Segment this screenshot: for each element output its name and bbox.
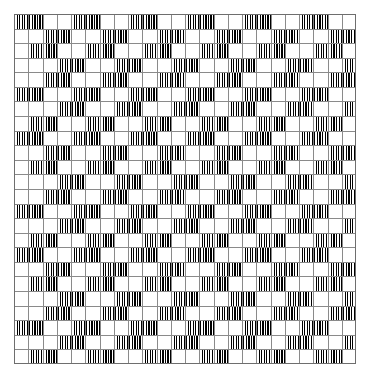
stripe-block xyxy=(85,160,114,175)
stripe-block xyxy=(57,291,86,306)
stripe-block xyxy=(299,87,328,102)
stripe-block xyxy=(214,262,243,277)
stripe-block xyxy=(14,87,43,102)
stripe-block xyxy=(199,160,228,175)
stripe-block xyxy=(171,58,200,73)
stripe-block xyxy=(214,72,243,87)
stripe-block xyxy=(256,43,285,58)
stripe-block xyxy=(157,306,186,321)
stripe-block xyxy=(313,43,342,58)
stripe-block xyxy=(256,276,285,291)
stripe-block xyxy=(285,101,314,116)
stripe-block xyxy=(157,145,186,160)
stripe-block xyxy=(285,291,314,306)
stripe-block xyxy=(142,116,171,131)
stripe-block xyxy=(85,349,114,364)
page-canvas: Twisted cord grid illusion xyxy=(0,0,370,381)
stripe-block xyxy=(342,174,356,189)
stripe-block xyxy=(328,72,357,87)
stripe-block xyxy=(299,320,328,335)
stripe-block xyxy=(328,189,357,204)
stripe-block xyxy=(228,58,257,73)
stripe-block xyxy=(271,189,300,204)
stripe-block xyxy=(43,145,72,160)
stripe-block xyxy=(271,262,300,277)
stripe-block xyxy=(142,349,171,364)
stripe-block xyxy=(57,218,86,233)
stripe-block xyxy=(171,335,200,350)
illusion-figure xyxy=(14,14,356,364)
stripe-block xyxy=(242,204,271,219)
stripe-block xyxy=(342,58,356,73)
stripe-block xyxy=(43,72,72,87)
stripe-block xyxy=(14,320,43,335)
stripe-block xyxy=(328,145,357,160)
stripe-block xyxy=(71,247,100,262)
stripe-block xyxy=(57,174,86,189)
stripe-block xyxy=(299,14,328,29)
stripe-block xyxy=(43,262,72,277)
stripe-block xyxy=(228,174,257,189)
stripe-block xyxy=(71,14,100,29)
stripe-block xyxy=(142,276,171,291)
stripe-block xyxy=(114,58,143,73)
stripe-block xyxy=(71,87,100,102)
stripe-block xyxy=(342,335,356,350)
stripe-block xyxy=(171,101,200,116)
stripe-block xyxy=(14,204,43,219)
stripe-block xyxy=(28,43,57,58)
stripe-block xyxy=(214,29,243,44)
stripe-block xyxy=(100,189,129,204)
stripe-block xyxy=(185,87,214,102)
stripe-block xyxy=(28,116,57,131)
stripe-block xyxy=(28,276,57,291)
stripe-block xyxy=(85,116,114,131)
stripe-block xyxy=(214,145,243,160)
stripe-block xyxy=(71,131,100,146)
stripe-block xyxy=(71,320,100,335)
stripe-block xyxy=(285,58,314,73)
stripe-block xyxy=(299,204,328,219)
stripe-block xyxy=(199,43,228,58)
stripe-block xyxy=(313,233,342,248)
stripe-block xyxy=(256,233,285,248)
stripe-block xyxy=(157,72,186,87)
stripe-block xyxy=(328,262,357,277)
stripe-block xyxy=(43,29,72,44)
stripe-block xyxy=(85,276,114,291)
stripe-block xyxy=(71,204,100,219)
stripe-block xyxy=(228,218,257,233)
stripe-block xyxy=(157,262,186,277)
stripe-block xyxy=(256,160,285,175)
stripe-block xyxy=(114,101,143,116)
stripe-block xyxy=(214,189,243,204)
stripe-block xyxy=(299,131,328,146)
stripe-block xyxy=(157,189,186,204)
stripe-block xyxy=(57,58,86,73)
stripe-block xyxy=(342,101,356,116)
stripe-block xyxy=(114,335,143,350)
stripe-block xyxy=(199,233,228,248)
stripe-block xyxy=(100,306,129,321)
stripe-block xyxy=(185,320,214,335)
stripe-block xyxy=(271,72,300,87)
stripe-block xyxy=(100,29,129,44)
stripe-block xyxy=(242,87,271,102)
stripe-block xyxy=(100,145,129,160)
stripe-block xyxy=(28,349,57,364)
stripe-block xyxy=(313,349,342,364)
stripe-block xyxy=(285,174,314,189)
stripe-block xyxy=(185,247,214,262)
stripe-block xyxy=(228,291,257,306)
stripe-block xyxy=(342,218,356,233)
stripe-block xyxy=(228,101,257,116)
stripe-block xyxy=(214,306,243,321)
stripe-block xyxy=(43,306,72,321)
stripe-block xyxy=(128,131,157,146)
stripe-block xyxy=(328,29,357,44)
figure-title: Twisted cord grid illusion xyxy=(0,0,1,1)
stripe-block xyxy=(228,335,257,350)
stripe-block xyxy=(128,14,157,29)
stripe-block xyxy=(114,174,143,189)
stripe-block xyxy=(185,131,214,146)
